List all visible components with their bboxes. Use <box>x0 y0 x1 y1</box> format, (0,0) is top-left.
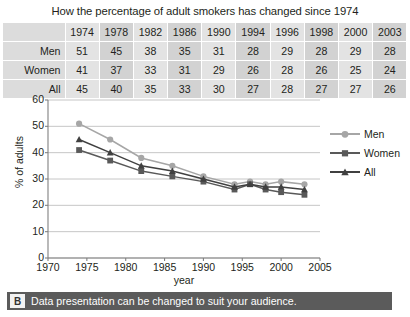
table-cell: 28 <box>236 42 270 61</box>
table-cell: 45 <box>99 42 133 61</box>
table-row: Women41373331292628262524 <box>3 61 407 80</box>
legend-item: All <box>330 162 400 181</box>
table-cell: 24 <box>373 61 407 80</box>
table-col-header: 2000 <box>339 23 373 42</box>
caption-text: Data presentation can be changed to suit… <box>31 295 297 307</box>
table-cell: 37 <box>99 61 133 80</box>
legend-label: All <box>364 166 376 178</box>
legend-marker-square-icon <box>330 146 360 160</box>
table-col-header: 1990 <box>202 23 236 42</box>
table-header-row: 1974197819821986199019941996199820002003 <box>3 23 407 42</box>
table-col-header: 1982 <box>133 23 167 42</box>
table-row-label: Women <box>3 61 65 80</box>
table-cell: 29 <box>202 61 236 80</box>
figure-root: How the percentage of adult smokers has … <box>0 0 410 317</box>
legend-label: Men <box>364 128 384 140</box>
table-cell: 29 <box>270 42 304 61</box>
table-cell: 25 <box>339 61 373 80</box>
table-cell: 28 <box>304 42 338 61</box>
table-cell: 38 <box>133 42 167 61</box>
table-cell: 41 <box>65 61 99 80</box>
chart-plot-area: % of adults 0102030405060 19701975198019… <box>0 96 410 282</box>
table-cell: 35 <box>168 42 202 61</box>
legend-marker-triangle-icon <box>330 165 360 179</box>
table-cell: 26 <box>304 61 338 80</box>
legend-marker-circle-icon <box>330 127 360 141</box>
legend-item: Women <box>330 143 400 162</box>
table-cell: 31 <box>168 61 202 80</box>
table-cell: 28 <box>270 61 304 80</box>
chart-legend: MenWomenAll <box>330 124 400 181</box>
table-row-label: Men <box>3 42 65 61</box>
caption-bar: B Data presentation can be changed to su… <box>7 292 392 310</box>
legend-label: Women <box>364 147 400 159</box>
table-body: Men51453835312829282928Women413733312926… <box>3 42 407 99</box>
table-col-header: 1998 <box>304 23 338 42</box>
caption-badge: B <box>10 294 25 308</box>
table-corner-cell <box>3 23 65 42</box>
table-col-header: 1996 <box>270 23 304 42</box>
table-col-header: 1978 <box>99 23 133 42</box>
legend-item: Men <box>330 124 400 143</box>
table-cell: 31 <box>202 42 236 61</box>
data-table: 1974197819821986199019941996199820002003… <box>3 23 407 99</box>
table-col-header: 1994 <box>236 23 270 42</box>
table-col-header: 1986 <box>168 23 202 42</box>
table-cell: 51 <box>65 42 99 61</box>
table-cell: 29 <box>339 42 373 61</box>
table-col-header: 2003 <box>373 23 407 42</box>
table-row: Men51453835312829282928 <box>3 42 407 61</box>
table-cell: 28 <box>373 42 407 61</box>
figure-title: How the percentage of adult smokers has … <box>0 5 410 17</box>
table-col-header: 1974 <box>65 23 99 42</box>
table-cell: 33 <box>133 61 167 80</box>
table-cell: 26 <box>236 61 270 80</box>
